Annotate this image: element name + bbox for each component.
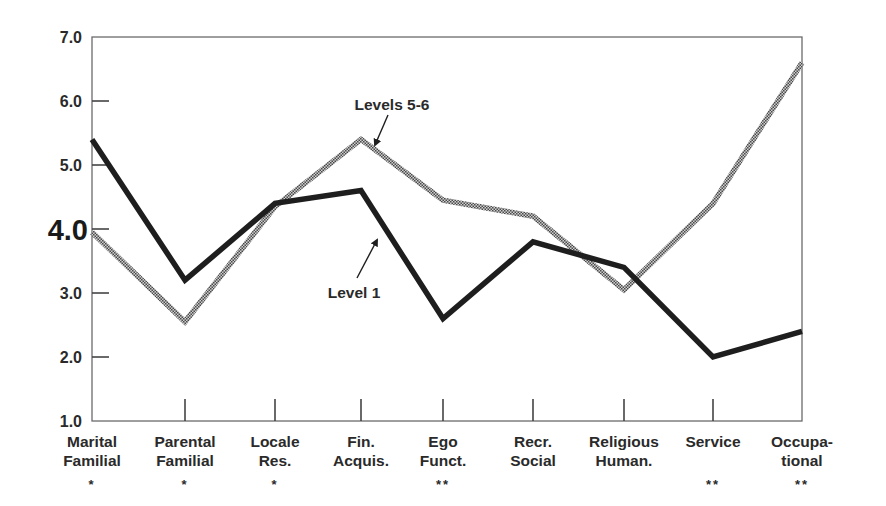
category-label: Acquis. (333, 452, 389, 469)
category-label: Service (685, 433, 741, 450)
x-axis: MaritalFamilial*ParentalFamilial*LocaleR… (63, 399, 833, 492)
significance-marker: * (88, 477, 95, 492)
category-label: Locale (250, 433, 299, 450)
series-line-levels-5-6 (92, 63, 802, 322)
y-tick-label: 5.0 (60, 157, 82, 174)
significance-marker: ** (795, 477, 809, 492)
line-chart: 1.02.03.04.05.06.07.0 MaritalFamilial*Pa… (0, 0, 886, 506)
series-layer (92, 63, 802, 357)
category-label: Marital (67, 433, 117, 450)
y-tick-label: 1.0 (60, 413, 82, 430)
category-label: Recr. (514, 433, 552, 450)
category-label: Funct. (420, 452, 467, 469)
plot-frame (92, 37, 802, 421)
category-label: Religious (589, 433, 659, 450)
category-label: Fin. (347, 433, 375, 450)
y-tick-label: 6.0 (60, 93, 82, 110)
category-label: Ego (428, 433, 457, 450)
category-label: Res. (259, 452, 292, 469)
significance-marker: * (181, 477, 188, 492)
y-tick-label: 4.0 (48, 214, 88, 246)
arrow-icon (357, 240, 377, 278)
category-label: Occupa- (771, 433, 833, 450)
significance-marker: ** (436, 477, 450, 492)
significance-marker: ** (706, 477, 720, 492)
annotation-level-1: Level 1 (328, 284, 381, 301)
y-tick-label: 2.0 (60, 349, 82, 366)
series-line-level-1 (92, 139, 802, 357)
y-tick-label: 7.0 (60, 29, 82, 46)
category-label: Human. (596, 452, 653, 469)
category-label: Familial (156, 452, 214, 469)
y-tick-label: 3.0 (60, 285, 82, 302)
plot-border (92, 37, 802, 421)
annotation-levels-5-6: Levels 5-6 (355, 96, 430, 113)
y-axis: 1.02.03.04.05.06.07.0 (48, 29, 109, 430)
category-label: Familial (63, 452, 121, 469)
significance-marker: * (271, 477, 278, 492)
arrow-icon (375, 115, 388, 145)
category-label: tional (781, 452, 822, 469)
category-label: Social (510, 452, 556, 469)
category-label: Parental (154, 433, 215, 450)
